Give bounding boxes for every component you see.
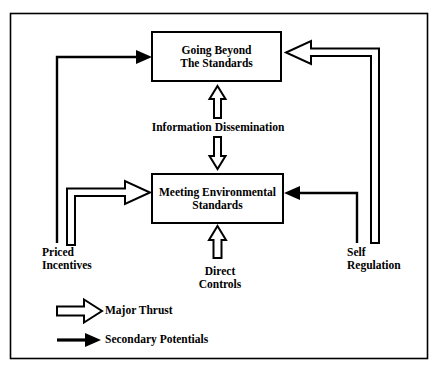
arrowhead-priced-incentives-to-going-beyond — [136, 50, 152, 64]
legend-secondary-potentials-icon — [85, 333, 101, 347]
diagram-vector-layer — [0, 0, 436, 375]
line-self-regulation-to-meeting-standards — [298, 193, 357, 243]
arrow-information-dissemination-up — [210, 86, 226, 118]
arrow-priced-incentives-to-meeting-standards — [67, 181, 150, 245]
side-label-priced-incentives: Priced Incentives — [42, 246, 92, 272]
legend-label-major-thrust: Major Thrust — [105, 304, 173, 316]
arrow-information-dissemination-down — [210, 137, 226, 169]
arrow-self-regulation-to-going-beyond — [286, 41, 379, 243]
arrowhead-self-regulation-to-meeting-standards — [284, 186, 300, 200]
legend-major-thrust-icon — [57, 300, 102, 323]
edge-label-information-dissemination: Information Dissemination — [118, 121, 318, 133]
side-label-direct-controls: Direct Controls — [175, 265, 265, 291]
legend-label-secondary-potentials: Secondary Potentials — [105, 333, 208, 345]
node-box-meeting-standards — [152, 174, 283, 223]
diagram-canvas: Going Beyond The Standards Meeting Envir… — [0, 0, 436, 375]
node-box-going-beyond — [152, 32, 281, 81]
arrow-direct-controls-to-meeting-standards — [209, 226, 226, 258]
side-label-self-regulation: Self Regulation — [347, 246, 401, 272]
